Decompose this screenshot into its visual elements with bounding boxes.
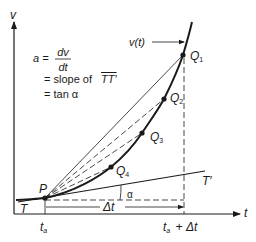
point-P — [42, 195, 47, 200]
t-axis-label: t — [244, 207, 247, 219]
formula-lhs: a = — [33, 53, 49, 64]
point-Q3 — [139, 130, 144, 135]
tick-ta-plus-delta: ta + Δt — [163, 221, 197, 233]
tangent-start-label: T — [20, 203, 27, 215]
point-Q1 — [180, 52, 185, 57]
formula-segment: TT′ — [101, 73, 117, 85]
curve-label: v(t) — [129, 37, 145, 48]
label-Q2: Q2 — [170, 92, 183, 104]
angle-label: α — [127, 190, 133, 200]
angle-arc — [120, 185, 121, 200]
formula-slope-text: = slope of — [44, 73, 92, 85]
velocity-curve — [16, 22, 192, 200]
delta-t-label: Δt — [103, 201, 114, 213]
point-Q2 — [161, 96, 166, 101]
formula-numerator: dv — [55, 46, 71, 58]
formula-denominator: dt — [55, 61, 71, 73]
formula-line-2: = slope of TT′ — [44, 74, 117, 85]
v-axis-label: v — [10, 9, 16, 21]
label-Q4: Q4 — [116, 165, 129, 177]
tick-ta: ta — [40, 221, 47, 233]
tangent-end-label: T′ — [202, 175, 212, 187]
point-Q4 — [108, 164, 113, 169]
secant-PQ4 — [45, 167, 111, 198]
secant-PQ2 — [45, 99, 164, 198]
formula-line-3: = tan α — [44, 89, 78, 100]
label-P: P — [39, 183, 47, 195]
label-Q1: Q1 — [190, 50, 203, 62]
label-Q3: Q3 — [150, 131, 163, 143]
acceleration-tangent-diagram — [0, 0, 256, 242]
